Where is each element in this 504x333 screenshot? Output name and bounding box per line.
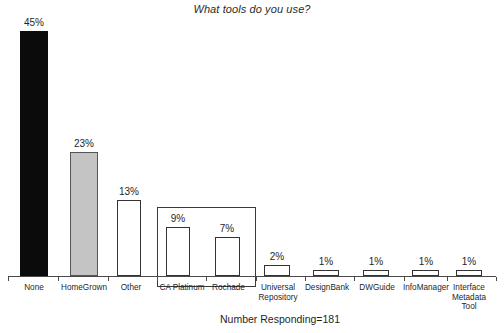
bar-value-rochade: 7%: [207, 223, 247, 234]
x-label-dwguide: DWGuide: [352, 283, 402, 293]
bar-chart-figure: What tools do you use? 45% 23% 13%: [0, 0, 504, 333]
x-label-homegrown: HomeGrown: [56, 283, 112, 293]
x-label-line: Universal: [252, 283, 304, 293]
bar-universal-repository: [264, 265, 290, 276]
bar-value-universal-repository: 2%: [257, 251, 297, 262]
x-label-other: Other: [107, 283, 155, 293]
bar-interface-metadata-tool: [456, 270, 482, 276]
x-axis-tick: [206, 277, 207, 281]
bar-designbank: [313, 270, 339, 276]
bar-rochade: [215, 237, 240, 276]
x-label-interface-metadata-tool: Interface Metadata Tool: [444, 283, 494, 312]
x-axis-line: [8, 276, 496, 277]
chart-footnote-text: Number Responding=181: [220, 313, 340, 325]
x-label-line: DWGuide: [352, 283, 402, 293]
x-label-line: None: [9, 283, 59, 293]
x-axis-tick: [58, 277, 59, 281]
chart-footnote: Number Responding=181: [0, 313, 504, 325]
bar-value-designbank: 1%: [306, 256, 346, 267]
x-axis-tick: [447, 277, 448, 281]
x-label-none: None: [9, 283, 59, 293]
x-axis-tick: [496, 277, 497, 281]
x-axis-tick: [256, 277, 257, 281]
x-label-designbank: DesignBank: [301, 283, 353, 293]
x-axis-tick: [108, 277, 109, 281]
x-label-line: Tool: [444, 302, 494, 312]
x-axis-tick: [8, 277, 9, 281]
x-label-rochade: Rochade: [202, 283, 255, 293]
x-label-line: Metadata: [444, 293, 494, 303]
bar-value-ca-platinum: 9%: [158, 213, 198, 224]
bar-homegrown: [70, 152, 98, 276]
bar-none: [20, 31, 48, 276]
x-label-line: Rochade: [202, 283, 255, 293]
x-axis-tick: [354, 277, 355, 281]
bar-value-dwguide: 1%: [356, 256, 396, 267]
x-label-line: HomeGrown: [56, 283, 112, 293]
x-label-line: DesignBank: [301, 283, 353, 293]
x-label-ca-platinum: CA Platinum: [155, 283, 209, 293]
bar-ca-platinum: [166, 227, 190, 276]
bar-other: [117, 200, 141, 276]
x-axis-tick: [157, 277, 158, 281]
x-axis-tick: [404, 277, 405, 281]
plot-area: 45% 23% 13% 9% 7% 2% 1% 1% 1% 1% None Ho…: [0, 0, 504, 333]
bar-value-none: 45%: [14, 17, 54, 28]
x-label-line: Repository: [252, 293, 304, 303]
bar-value-homegrown: 23%: [64, 138, 104, 149]
bar-dwguide: [363, 270, 389, 276]
bar-value-infomanager: 1%: [406, 256, 446, 267]
bar-infomanager: [412, 270, 439, 276]
bar-value-other: 13%: [109, 186, 149, 197]
x-label-line: CA Platinum: [155, 283, 209, 293]
x-label-line: Interface: [444, 283, 494, 293]
x-label-universal-repository: Universal Repository: [252, 283, 304, 302]
x-axis-tick: [305, 277, 306, 281]
bar-value-interface-metadata-tool: 1%: [449, 256, 489, 267]
x-label-line: Other: [107, 283, 155, 293]
